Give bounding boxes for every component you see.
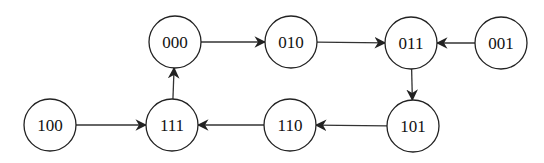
node-label: 110 (278, 116, 303, 135)
edge-010-to-011 (317, 42, 385, 43)
node-label: 101 (400, 117, 426, 136)
node-label: 010 (278, 33, 304, 52)
node-label: 001 (488, 34, 514, 53)
state-node-000: 000 (149, 16, 201, 68)
node-label: 111 (160, 116, 184, 135)
state-node-100: 100 (24, 99, 76, 151)
state-diagram: 000010011001100111110101 (0, 0, 544, 163)
state-node-101: 101 (387, 100, 439, 152)
arrow-icon (412, 69, 413, 100)
state-node-111: 111 (146, 99, 198, 151)
state-node-001: 001 (475, 17, 527, 69)
edge-011-to-101 (412, 69, 413, 100)
node-label: 011 (399, 34, 424, 53)
arrow-icon (173, 68, 174, 99)
edge-101-to-110 (316, 125, 387, 126)
node-label: 100 (37, 116, 63, 135)
state-node-110: 110 (264, 99, 316, 151)
edge-111-to-000 (173, 68, 174, 99)
state-node-011: 011 (385, 17, 437, 69)
arrow-icon (317, 42, 385, 43)
node-label: 000 (162, 33, 188, 52)
arrow-icon (316, 125, 387, 126)
state-node-010: 010 (265, 16, 317, 68)
